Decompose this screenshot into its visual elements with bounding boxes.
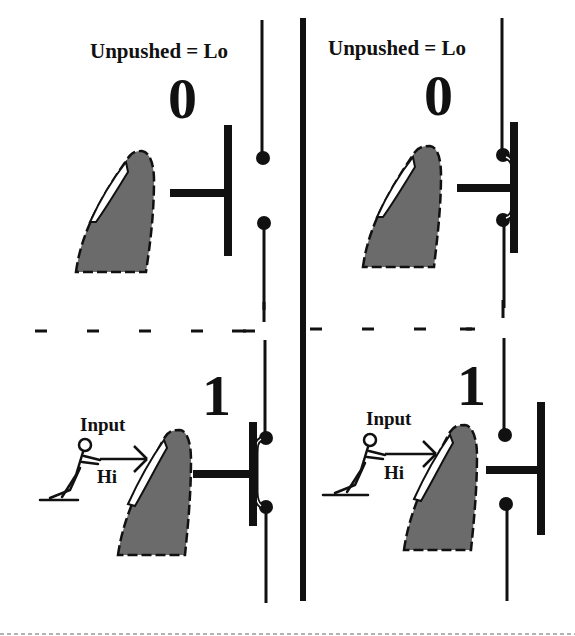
switch-stem: [193, 470, 251, 478]
panel-bottom-left-input-value: Hi: [97, 466, 117, 488]
finger-icon: [76, 151, 154, 272]
pushing-person-icon: [40, 439, 100, 500]
panel-bottom-right-state-digit: 1: [457, 357, 486, 415]
panel-bottom-left-input-label: Input: [80, 414, 125, 436]
panel-top-left-caption: Unpushed = Lo: [90, 39, 228, 64]
panel-bottom-right-input-label: Input: [366, 408, 411, 430]
switch-stem: [457, 184, 512, 192]
switch-diagram: Unpushed = Lo 0 Unpushed = Lo 0 1 Input …: [0, 0, 575, 636]
finger-icon: [363, 146, 441, 267]
panel-top-right-state-digit: 0: [424, 67, 453, 125]
panel-top-right-caption: Unpushed = Lo: [328, 36, 466, 61]
pushing-person-icon: [323, 434, 385, 495]
panel-bottom-right: [323, 300, 545, 601]
panel-bottom-right-input-value: Hi: [384, 462, 404, 484]
switch-stem: [486, 466, 539, 474]
finger-icon: [118, 430, 191, 555]
panel-top-left-state-digit: 0: [168, 70, 197, 128]
diagram-canvas: [0, 0, 575, 636]
center-divider: [300, 18, 306, 601]
contact-dot-icon: [498, 428, 512, 442]
panel-top-right: [363, 18, 518, 308]
panel-bottom-left: [40, 302, 273, 603]
panel-bottom-left-state-digit: 1: [202, 367, 231, 425]
contact-dot-icon: [256, 151, 270, 165]
contact-dot-icon: [259, 431, 273, 445]
finger-icon: [404, 425, 477, 550]
switch-stem: [170, 189, 226, 197]
